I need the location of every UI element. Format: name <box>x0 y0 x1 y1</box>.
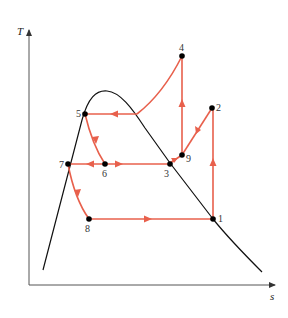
label-8: 8 <box>85 223 90 234</box>
x-axis-label: s <box>270 290 274 302</box>
flow-arrows <box>74 99 217 223</box>
point-2 <box>209 105 215 111</box>
y-axis-label: T <box>17 25 24 37</box>
label-5: 5 <box>76 108 81 119</box>
point-8 <box>86 216 92 222</box>
label-4: 4 <box>179 42 184 53</box>
point-5 <box>82 111 88 117</box>
cycle-processes <box>68 56 213 219</box>
point-6 <box>102 161 108 167</box>
arrow-right-icon <box>115 161 123 168</box>
arrow-up-icon <box>179 99 186 107</box>
point-7 <box>65 161 71 167</box>
point-3 <box>167 161 173 167</box>
label-7: 7 <box>59 159 64 170</box>
point-4 <box>179 53 185 59</box>
point-labels: 1 2 3 4 5 6 7 8 9 <box>59 42 223 234</box>
label-2: 2 <box>216 102 221 113</box>
point-9 <box>179 152 185 158</box>
arrow-left-icon <box>86 161 94 168</box>
point-1 <box>210 216 216 222</box>
label-9: 9 <box>186 153 191 164</box>
arrow-up-icon <box>210 158 217 166</box>
label-6: 6 <box>102 168 107 179</box>
arrow-right-icon <box>144 216 152 223</box>
label-3: 3 <box>164 168 169 179</box>
label-1: 1 <box>218 213 223 224</box>
arrow-left-icon <box>110 111 118 118</box>
process-4-condense <box>137 56 182 114</box>
ts-diagram: T s <box>0 0 288 318</box>
